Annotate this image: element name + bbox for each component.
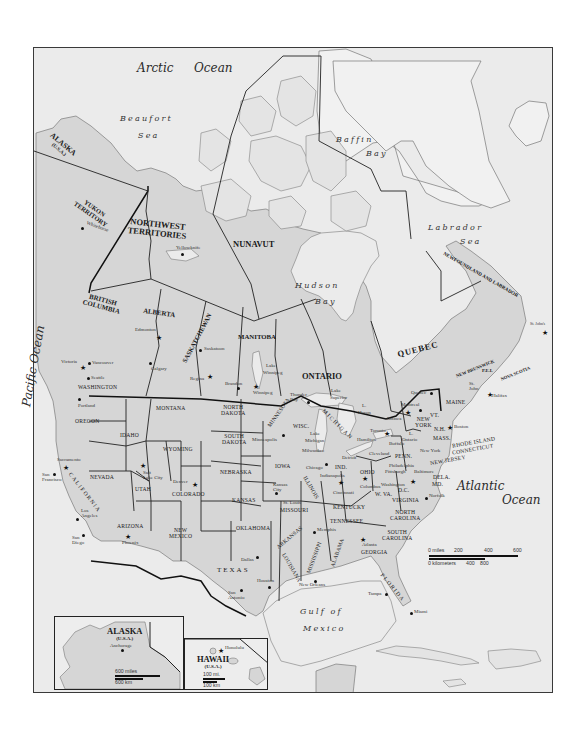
beaufort-sea-label-2: Sea — [138, 132, 160, 140]
wisconsin-label: WISC. — [293, 424, 309, 430]
quebec-city-dot — [430, 392, 433, 395]
hamilton-label: Hamilton — [357, 437, 376, 442]
winnipeg-label: Winnipeg — [253, 390, 273, 395]
cleveland-label: Cleveland — [369, 451, 389, 456]
north-dakota-label: NORTHDAKOTA — [221, 405, 245, 416]
south-carolina-label: SOUTHCAROLINA — [382, 530, 413, 541]
quebec-city-label: Quebec — [411, 390, 426, 395]
virginia-label: VIRGINIA — [392, 498, 419, 504]
montreal-label: Montreal — [401, 402, 419, 407]
new-hampshire-label: N.H. — [434, 427, 446, 433]
denver-star: ★ — [192, 482, 198, 489]
alaska-inset: ALASKA(U.S.A.) Anchorage 600 miles 600 k… — [54, 616, 184, 690]
vancouver-label: Vancouver — [92, 360, 113, 365]
memphis-label: Memphis — [317, 527, 336, 532]
scale-km-tick-400: 400 — [466, 561, 475, 566]
boston-star: ★ — [447, 425, 453, 432]
san-diego-label: SanDiego — [72, 535, 84, 545]
milwaukee-label: Milwaukee — [302, 448, 325, 453]
los-angeles-dot — [76, 518, 79, 521]
houston-label: Houston — [257, 578, 274, 583]
detroit-label: Detroit — [342, 455, 356, 460]
minneapolis-label: Minneapolis — [252, 437, 277, 442]
miami-dot — [410, 612, 413, 615]
dallas-label: Dallas — [241, 557, 254, 562]
hispaniola-shape — [488, 649, 541, 669]
pittsburgh-label: Pittsburgh — [385, 469, 405, 474]
phoenix-label: Phoenix — [122, 540, 138, 545]
columbus-label: Columbus — [360, 484, 381, 489]
vermont-label: VT. — [430, 413, 439, 419]
maine-label: MAINE — [446, 400, 465, 406]
south-dakota-label: SOUTHDAKOTA — [222, 434, 246, 445]
yellowknife-label: Yellowknife — [176, 245, 201, 250]
regina-label: Regina — [190, 376, 204, 381]
iowa-label: IOWA — [275, 464, 290, 470]
missouri-label: MISSOURI — [280, 508, 308, 514]
st-louis-label: St. Louis — [283, 500, 301, 505]
beaufort-sea-label-1: Beaufort — [120, 115, 173, 123]
halifax-label: Halifax — [492, 393, 507, 398]
lake-winnipeg-label-1: Lake — [266, 363, 276, 368]
thunder-bay-label: ThunderBay — [290, 392, 307, 402]
scale-km-label: 0 kilometers — [428, 561, 456, 566]
columbus-star: ★ — [362, 476, 368, 483]
toronto-label: Toronto — [370, 428, 386, 433]
colorado-label: COLORADO — [172, 492, 205, 498]
victoria-label: Victoria — [61, 359, 77, 364]
lake-michigan-label-2: Michigan — [305, 438, 324, 443]
buffalo-label: Buffalo — [389, 441, 404, 446]
denver-label: Denver — [173, 479, 188, 484]
tampa-label: Tampa — [368, 591, 382, 596]
scale-miles-tick-400: 400 — [484, 548, 493, 553]
gulf-of-mexico-label-2: Mexico — [303, 625, 346, 633]
vancouver-dot — [88, 362, 91, 365]
memphis-dot — [313, 531, 316, 534]
calgary-dot — [149, 362, 152, 365]
arizona-label: ARIZONA — [117, 524, 144, 530]
ottawa-label: Ottawa — [387, 416, 401, 421]
scale-miles-label: 0 miles — [428, 548, 444, 553]
washington-dc-star: ★ — [410, 479, 416, 486]
atlanta-label: Atlanta — [362, 542, 377, 547]
alaska-scale-bar — [115, 675, 160, 677]
hawaii-scale-km: 100 km — [203, 683, 220, 688]
indiana-label: IND. — [335, 465, 347, 471]
kansas-label: KANSAS — [232, 498, 256, 504]
scale-bar: 0 miles 200 400 600 0 kilometers 400 800 — [428, 548, 528, 570]
hawaii-inset-title: HAWAII(U.S.A.) — [197, 655, 229, 669]
dallas-dot — [256, 556, 259, 559]
georgia-label: GEORGIA — [361, 550, 388, 556]
lake-superior-label-1: Lake — [331, 388, 341, 393]
minneapolis-dot — [282, 434, 285, 437]
saskatoon-label: Saskatoon — [204, 346, 225, 351]
st-john-label: St.John — [469, 381, 478, 391]
anchorage-label: Anchorage — [110, 643, 132, 648]
st-johns-label: St. John's — [530, 322, 545, 326]
new-york-city-label: New York — [420, 448, 440, 453]
san-antonio-label: SanAntonio — [228, 590, 244, 600]
baffin-bay-label-1: Baffin — [336, 136, 373, 144]
st-johns-star: ★ — [542, 330, 548, 337]
texas-label: TEXAS — [217, 567, 250, 574]
washington-label: WASHINGTON — [78, 385, 117, 391]
wyoming-label: WYOMING — [163, 447, 193, 453]
tampa-dot — [385, 593, 388, 596]
ontario-label: ONTARIO — [302, 372, 342, 381]
idaho-label: IDAHO — [120, 433, 139, 439]
gulf-of-mexico-label-1: Gulf of — [300, 608, 343, 616]
dc-label: D.C. — [398, 488, 409, 494]
alaska-scale-km: 600 km — [115, 680, 132, 685]
hudson-bay-label-2: Bay — [315, 298, 337, 306]
regina-star: ★ — [207, 374, 213, 381]
edmonton-star: ★ — [156, 335, 162, 342]
scale-km-tick-800: 800 — [480, 561, 489, 566]
north-carolina-label: NORTHCAROLINA — [390, 510, 421, 521]
arctic-ocean-label-1: Arctic — [137, 62, 174, 74]
philadelphia-label: Philadelphia — [389, 463, 414, 468]
seattle-dot — [87, 377, 90, 380]
houston-dot — [268, 586, 271, 589]
atlantic-ocean-label-2: Ocean — [502, 494, 541, 506]
mass-label: MASS. — [433, 436, 451, 442]
salt-lake-city-star: ★ — [140, 463, 146, 470]
